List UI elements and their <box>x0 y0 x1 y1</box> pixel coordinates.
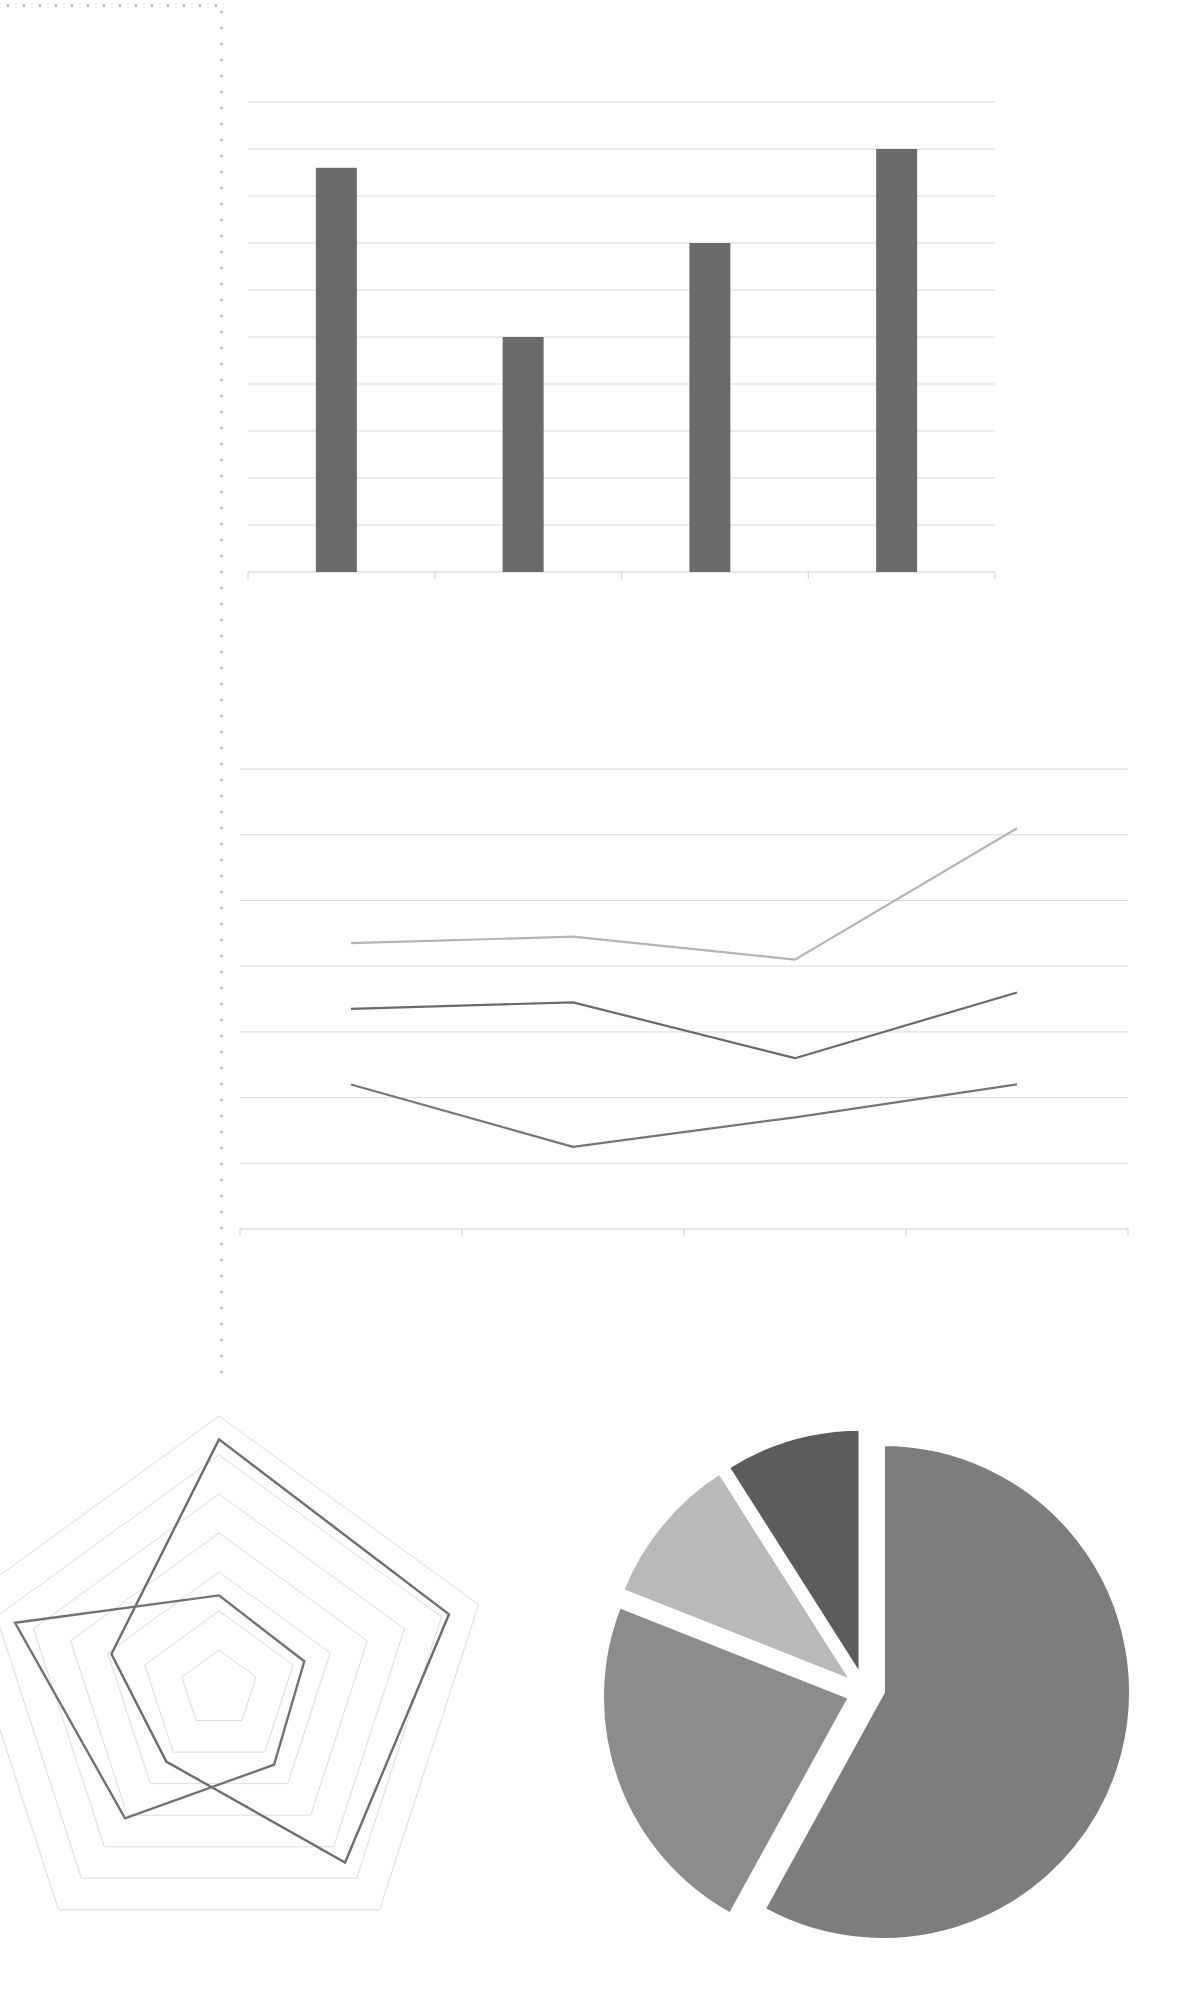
pie-chart <box>0 0 1187 2006</box>
